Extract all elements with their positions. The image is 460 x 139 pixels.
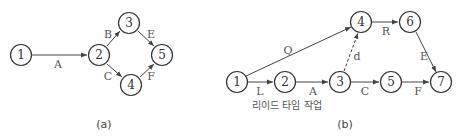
node-b-7: 7 [431,72,452,93]
svg-text:4: 4 [357,15,365,29]
node-b-4: 4 [351,12,372,33]
edge-label-a-B: B [104,28,112,41]
node-a-5: 5 [152,45,173,66]
svg-text:4: 4 [127,78,135,92]
node-b-3: 3 [330,72,351,93]
svg-text:2: 2 [95,48,103,62]
node-b-1: 1 [227,72,248,93]
caption-b: (b) [337,118,353,131]
caption-a: (a) [96,118,111,131]
edge-b-1-4 [246,27,351,76]
edge-label-b-d: d [353,50,360,63]
svg-text:3: 3 [336,75,344,89]
node-b-2: 2 [275,72,296,93]
network-diagrams: A B C E F 1 2 3 4 5 (a) Q L A d C R F E … [0,0,460,139]
svg-text:6: 6 [406,15,414,29]
node-b-5: 5 [381,72,402,93]
edge-label-a-F: F [147,70,155,83]
diagram-b: Q L A d C R F E 1 2 3 4 5 6 7 리이드 타임 작업 … [227,12,452,131]
edge-label-b-A: A [308,85,318,98]
svg-text:5: 5 [387,75,395,89]
edge-label-b-Q: Q [283,44,292,57]
node-a-1: 1 [11,45,32,66]
edge-label-a-A: A [53,58,63,71]
edge-label-b-C: C [361,85,369,98]
edge-label-b-E: E [420,50,428,63]
svg-text:5: 5 [158,48,166,62]
svg-text:1: 1 [233,75,241,89]
edge-label-b-F: F [414,85,422,98]
edge-label-a-C: C [104,70,112,83]
diagram-a: A B C E F 1 2 3 4 5 (a) [11,13,173,131]
svg-text:3: 3 [125,16,133,30]
edge-label-b-R: R [382,25,391,38]
edge-label-a-E: E [147,28,155,41]
svg-text:7: 7 [437,75,445,89]
svg-text:2: 2 [281,75,289,89]
node-a-2: 2 [89,45,110,66]
lead-time-note: 리이드 타임 작업 [252,99,321,111]
node-b-6: 6 [400,12,421,33]
edge-label-b-L: L [256,85,264,98]
node-a-3: 3 [119,13,140,34]
node-a-4: 4 [121,75,142,96]
svg-text:1: 1 [17,48,25,62]
